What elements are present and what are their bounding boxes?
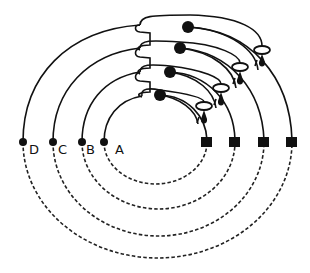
notch-column — [136, 25, 151, 97]
ring-c-lower-arc — [53, 142, 264, 236]
lower-dashed-arcs — [23, 142, 292, 258]
right-terminals — [201, 137, 297, 147]
ring-b-bead — [164, 66, 176, 78]
ring-b-lower-arc — [82, 142, 235, 209]
terminal-c — [258, 137, 269, 147]
label-c: C — [58, 142, 67, 157]
terminal-a — [201, 137, 212, 147]
label-d: D — [29, 142, 39, 157]
ring-a-bead — [154, 89, 166, 101]
ring-d-bead — [182, 21, 194, 33]
ring-d-lower-arc — [23, 142, 292, 258]
terminal-b — [229, 137, 240, 147]
node-c — [49, 138, 57, 146]
ring-c-bead — [174, 42, 186, 54]
node-b — [78, 138, 86, 146]
label-a: A — [115, 142, 124, 157]
ring-c-marker — [232, 63, 248, 85]
ring-d-marker — [254, 46, 270, 67]
beads — [154, 21, 194, 101]
concentric-loop-diagram: D C B A — [0, 0, 310, 273]
upper-solid-arcs — [23, 15, 292, 142]
ring-c-loop — [140, 41, 240, 63]
ring-a-upper-left — [104, 96, 142, 142]
ring-labels: D C B A — [29, 142, 124, 157]
node-d — [19, 138, 27, 146]
ring-c-upper-right — [180, 48, 264, 140]
ring-a-marker — [196, 102, 212, 124]
ring-b-upper-left — [82, 72, 140, 142]
label-b: B — [86, 142, 95, 157]
node-a — [100, 138, 108, 146]
terminal-d — [286, 137, 297, 147]
ring-a-loop — [142, 89, 204, 102]
ring-b-marker — [213, 84, 229, 106]
ring-d-upper-left — [23, 25, 140, 142]
